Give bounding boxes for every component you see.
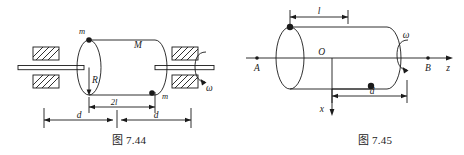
figure-7-44: m m M R 2l d d ω — [0, 0, 232, 131]
dim-l-arrow-left — [290, 15, 296, 19]
point-b-marker — [426, 56, 430, 60]
label-distance-right: d — [154, 110, 159, 120]
point-a-marker — [255, 56, 259, 60]
dim-d-right-arrow-a — [121, 118, 127, 122]
label-axis-x: x — [319, 104, 325, 114]
label-mass-top: m — [79, 26, 85, 36]
figure-7-45: A B z O x l d ω — [232, 0, 464, 131]
label-distance-left: d — [77, 110, 82, 120]
label-point-a: A — [253, 63, 260, 73]
label-cylinder-mass: M — [133, 40, 143, 50]
label-origin-o: O — [318, 47, 325, 57]
axis-z-arrow — [446, 56, 453, 61]
point-mass-top — [86, 37, 92, 43]
label-omega-744: ω — [206, 83, 213, 93]
dim-d-right-arrow-b — [185, 118, 191, 122]
label-offset-l: l — [318, 6, 321, 16]
omega-rotation-arc — [195, 52, 206, 82]
dim-d-left-arrow-a — [44, 118, 50, 122]
label-distance-d-745: d — [370, 86, 375, 96]
cylinder-right-face — [155, 40, 167, 95]
dim-d-left-arrow-b — [107, 118, 113, 122]
point-mass-bottom — [149, 90, 155, 96]
figure-7-45-caption: 图 7.45 — [330, 131, 420, 147]
omega-rotation-arc-745 — [397, 40, 408, 70]
point-mass-top-745 — [287, 24, 293, 30]
bearing-left-upper — [33, 47, 59, 60]
label-point-b: B — [425, 63, 431, 73]
dim-d-arrow-left-745 — [332, 94, 338, 98]
axis-x-arrow — [330, 109, 335, 116]
label-radius: R — [91, 75, 98, 85]
label-length-2l: 2l — [111, 97, 118, 107]
dim-d-arrow-right-745 — [401, 94, 407, 98]
figure-page: m m M R 2l d d ω 图 7.44 — [0, 0, 464, 155]
dim-2l-arrow-right — [149, 105, 155, 109]
label-mass-bottom: m — [162, 91, 168, 101]
bearing-left-lower — [33, 75, 59, 88]
bearing-right-upper — [172, 47, 198, 60]
omega-arrow-head-745 — [403, 67, 409, 74]
label-omega-745: ω — [403, 30, 410, 40]
bearing-right-lower — [172, 75, 198, 88]
dim-2l-arrow-left — [89, 105, 95, 109]
shaft-left — [18, 66, 84, 70]
label-axis-z: z — [445, 63, 450, 73]
figure-7-44-caption: 图 7.44 — [84, 131, 174, 147]
dim-l-arrow-right — [342, 15, 348, 19]
shaft-right — [155, 66, 214, 70]
